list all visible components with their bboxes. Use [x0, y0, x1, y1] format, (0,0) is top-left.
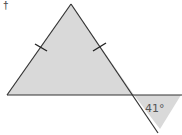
triangle-fill	[7, 4, 134, 95]
angle-label: 41°	[145, 102, 165, 115]
